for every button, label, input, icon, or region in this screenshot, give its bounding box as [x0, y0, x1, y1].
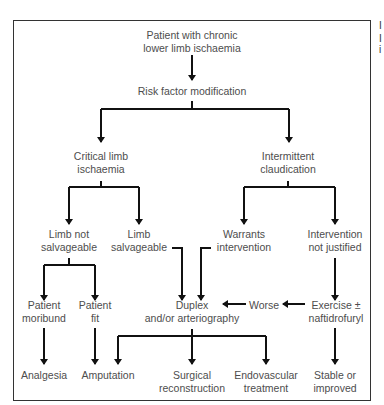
node-intervention-not-justified: Intervention not justified: [308, 228, 363, 254]
node-stable-improved: Stable or improved: [313, 369, 356, 395]
node-intermittent-claudication: Intermittent claudication: [260, 150, 315, 176]
node-patient-moribund: Patient moribund: [22, 299, 66, 325]
node-warrants-intervention: Warrants intervention: [217, 228, 271, 254]
node-limb-salvageable: Limb salvageable: [111, 228, 167, 254]
node-amputation: Amputation: [81, 369, 134, 382]
node-worse: Worse: [249, 299, 279, 312]
side-text-fragment: I: [379, 33, 382, 44]
node-limb-not-salvageable: Limb not salvageable: [41, 228, 97, 254]
node-start: Patient with chronic lower limb ischaemi…: [143, 29, 240, 55]
side-text-fragment: i: [379, 44, 381, 55]
node-patient-fit: Patient fit: [79, 299, 112, 325]
node-risk-factor-modification: Risk factor modification: [138, 85, 247, 98]
node-duplex-arteriography: Duplex and/or arteriography: [145, 299, 240, 325]
node-exercise-naftidrofuryl: Exercise ± naftidrofuryl: [309, 299, 364, 325]
node-critical-limb-ischaemia: Critical limb ischaemia: [74, 150, 128, 176]
node-analgesia: Analgesia: [21, 369, 67, 382]
side-text-fragment: I: [379, 20, 382, 31]
node-surgical-reconstruction: Surgical reconstruction: [159, 369, 225, 395]
flow-arrows: [0, 0, 384, 405]
node-endovascular-treatment: Endovascular treatment: [234, 369, 298, 395]
